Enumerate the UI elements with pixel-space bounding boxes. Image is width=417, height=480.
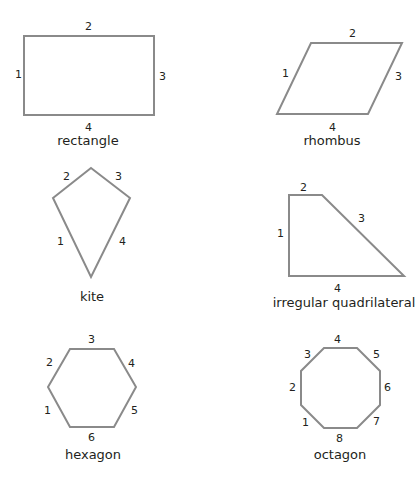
rhombus-shape — [277, 43, 402, 114]
side-label: 8 — [336, 432, 343, 445]
rhombus-figure: 1 2 3 4 rhombus — [277, 27, 402, 148]
hexagon-figure: 1 2 3 4 5 6 hexagon — [44, 333, 138, 462]
rectangle-shape — [24, 36, 154, 115]
side-label: 1 — [57, 235, 64, 248]
polygons-diagram: 1 2 3 4 rectangle 1 2 3 4 rhombus 2 1 3 … — [0, 0, 417, 480]
side-label: 3 — [304, 348, 311, 361]
side-label: 1 — [302, 416, 309, 429]
side-label: 5 — [373, 348, 380, 361]
kite-shape — [53, 168, 130, 277]
side-label: 3 — [395, 70, 402, 83]
shape-caption: octagon — [314, 447, 367, 462]
side-label: 4 — [334, 333, 341, 346]
irregular-quadrilateral-figure: 1 2 3 4 irregular quadrilateral — [273, 181, 416, 310]
octagon-shape — [301, 348, 380, 428]
side-label: 3 — [88, 333, 95, 346]
side-label: 4 — [334, 282, 341, 295]
octagon-figure: 1 2 3 4 5 6 7 8 octagon — [289, 333, 391, 462]
rectangle-figure: 1 2 3 4 rectangle — [15, 20, 166, 148]
shape-caption: rhombus — [303, 133, 360, 148]
side-label: 1 — [277, 227, 284, 240]
side-label: 2 — [85, 20, 92, 33]
shape-caption: kite — [80, 289, 104, 304]
side-label: 2 — [63, 170, 70, 183]
side-label: 4 — [128, 357, 135, 370]
shape-caption: hexagon — [65, 447, 121, 462]
side-label: 3 — [159, 70, 166, 83]
side-label: 6 — [88, 431, 95, 444]
side-label: 5 — [131, 404, 138, 417]
side-label: 2 — [46, 356, 53, 369]
hexagon-shape — [48, 349, 136, 427]
side-label: 3 — [358, 212, 365, 225]
side-label: 7 — [373, 415, 380, 428]
shape-caption: irregular quadrilateral — [273, 295, 416, 310]
side-label: 2 — [349, 27, 356, 40]
side-label: 4 — [119, 235, 126, 248]
side-label: 1 — [15, 68, 22, 81]
shape-caption: rectangle — [57, 133, 118, 148]
side-label: 1 — [44, 404, 51, 417]
side-label: 1 — [282, 67, 289, 80]
kite-figure: 2 1 3 4 kite — [53, 168, 130, 304]
side-label: 2 — [289, 381, 296, 394]
side-label: 3 — [115, 170, 122, 183]
side-label: 6 — [384, 381, 391, 394]
irregular-quadrilateral-shape — [289, 195, 404, 276]
side-label: 2 — [300, 181, 307, 194]
